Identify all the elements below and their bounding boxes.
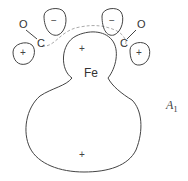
left-plus-sign: +	[20, 48, 26, 58]
left-oxygen-label: O	[19, 19, 28, 30]
orbital-diagram: O C O C Fe − + − + + + A1	[0, 0, 188, 181]
fe-top-plus-sign: +	[79, 44, 85, 54]
right-minus-sign: −	[109, 16, 115, 26]
left-minus-sign: −	[51, 16, 57, 26]
fe-bottom-plus-sign: +	[79, 150, 85, 160]
orbital-symmetry-label: A1	[166, 99, 178, 114]
right-co-bond	[127, 30, 136, 39]
orbital-subscript: 1	[173, 104, 178, 114]
orbital-drawing	[0, 0, 188, 181]
right-oxygen-label: O	[137, 19, 146, 30]
right-plus-sign: +	[136, 48, 142, 58]
right-carbon-label: C	[120, 38, 128, 49]
left-carbon-label: C	[37, 38, 45, 49]
left-co-bond	[26, 30, 37, 39]
fe-label: Fe	[84, 67, 98, 79]
